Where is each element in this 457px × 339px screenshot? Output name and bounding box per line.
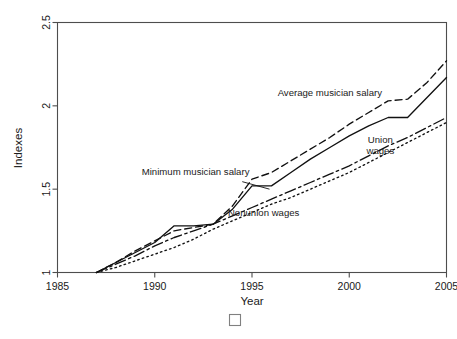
missing-glyph-box	[230, 315, 241, 326]
x-axis-ticks: 19851990199520002005	[46, 273, 457, 292]
x-tick-label: 1990	[143, 280, 167, 292]
annotation-group: Minimum musician salaryAverage musician …	[142, 87, 395, 218]
y-tick-label: 2.5	[40, 15, 52, 30]
y-tick-label: 1.5	[40, 182, 52, 197]
y-axis-title: Indexes	[12, 128, 24, 169]
line-chart: 11.522.5 19851990199520002005 Indexes Ye…	[0, 0, 457, 339]
x-tick-label: 1995	[240, 280, 264, 292]
annotation-nonunion-wages: Nonunion wages	[228, 207, 300, 218]
x-tick-label: 2005	[435, 280, 457, 292]
y-axis-ticks: 11.522.5	[40, 15, 57, 275]
series-line-union-wages	[96, 118, 446, 273]
annotation-union-wages: Unionwages	[366, 134, 395, 156]
y-tick-label: 2	[40, 103, 52, 109]
chart-container: 11.522.5 19851990199520002005 Indexes Ye…	[0, 0, 457, 339]
annotation-minimum-musician-salary: Minimum musician salary	[142, 166, 250, 177]
x-tick-label: 1985	[46, 280, 70, 292]
x-axis-title: Year	[240, 295, 263, 307]
y-tick-label: 1	[40, 269, 52, 275]
x-tick-label: 2000	[338, 280, 362, 292]
annotation-average-musician-salary: Average musician salary	[278, 87, 383, 98]
